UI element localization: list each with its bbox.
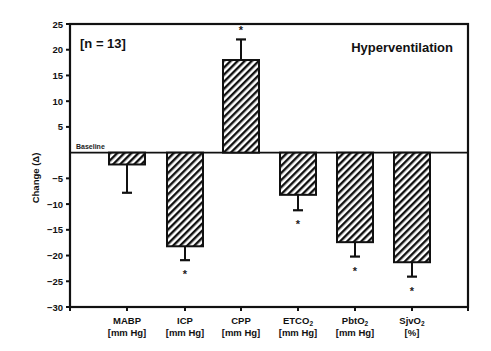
- x-category-unit: [mm Hg]: [222, 327, 261, 338]
- x-category-label: ICP: [177, 315, 194, 326]
- x-category-unit: [mm Hg]: [279, 327, 318, 338]
- bar-etco: [280, 153, 316, 195]
- x-category-unit: [mm Hg]: [166, 327, 205, 338]
- bar-cpp: [223, 60, 259, 153]
- y-tick-label: 10: [52, 96, 63, 107]
- bar-pbto: [337, 153, 373, 243]
- bar-mabp: [109, 153, 145, 165]
- bar-sjvo: [394, 153, 430, 263]
- y-tick-label: −15: [47, 224, 64, 235]
- significance-marker: *: [183, 268, 188, 280]
- y-tick-label: 15: [52, 70, 63, 81]
- x-category-label: CPP: [231, 315, 251, 326]
- y-tick-label: 25: [52, 19, 63, 30]
- y-tick-label: −25: [47, 276, 64, 287]
- chart-title: Hyperventilation: [351, 40, 453, 55]
- x-category-label: PbtO2: [342, 315, 369, 327]
- x-category-label: SjvO2: [399, 315, 425, 327]
- x-category-unit: [mm Hg]: [108, 327, 147, 338]
- bar-icp: [167, 153, 203, 247]
- significance-marker: *: [353, 265, 358, 277]
- x-category-label: ETCO2: [283, 315, 313, 327]
- significance-marker: *: [410, 285, 415, 297]
- significance-marker: *: [239, 24, 244, 36]
- baseline-label: Baseline: [76, 143, 105, 150]
- y-tick-label: −20: [47, 250, 63, 261]
- x-category-label: MABP: [113, 315, 142, 326]
- sample-size-annotation: [n = 13]: [80, 36, 126, 51]
- y-tick-label: −10: [47, 199, 63, 210]
- x-category-unit: [mm Hg]: [336, 327, 375, 338]
- x-category-unit: [%]: [405, 327, 420, 338]
- y-tick-label: −5: [52, 173, 64, 184]
- bar-chart: Baseline252015105−5−10−15−20−25−30Change…: [0, 0, 491, 351]
- significance-marker: *: [296, 218, 301, 230]
- y-tick-label: 5: [58, 121, 64, 132]
- y-tick-label: −30: [47, 302, 63, 313]
- y-tick-label: 20: [52, 44, 63, 55]
- y-axis-label: Change (Δ): [30, 153, 41, 204]
